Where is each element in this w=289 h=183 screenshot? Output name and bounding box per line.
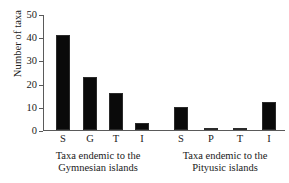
caption-line-1: Taxa endemic to the: [38, 150, 158, 162]
y-tick-mark: [39, 38, 43, 39]
bar-g1-s: [56, 35, 70, 130]
y-axis-line: [43, 15, 44, 131]
x-tick-label-g2-s: S: [178, 134, 184, 145]
group-caption-gymnesian: Taxa endemic to the Gymnesian islands: [38, 150, 158, 174]
bar-g1-i: [135, 123, 149, 130]
bar-chart-figure: Number of taxa 0 10 20 30 40 50: [0, 0, 289, 183]
plot-area: 0 10 20 30 40 50: [43, 15, 285, 131]
y-tick-label: 20: [27, 79, 38, 90]
x-axis-line: [43, 130, 285, 131]
y-tick-mark: [39, 85, 43, 86]
x-tick-label-g1-i: I: [140, 134, 144, 145]
caption-line-2: Gymnesian islands: [38, 162, 158, 174]
bar-g1-g: [83, 77, 97, 130]
y-tick-mark: [39, 15, 43, 16]
x-tick-label-g1-g: G: [86, 134, 94, 145]
y-tick-label: 0: [32, 126, 37, 137]
x-tick-label-g1-t: T: [113, 134, 119, 145]
group-caption-pityusic: Taxa endemic to the Pityusic islands: [165, 150, 285, 174]
y-tick-label: 30: [27, 56, 38, 67]
y-tick-label: 10: [27, 103, 38, 114]
y-axis-title: Number of taxa: [12, 0, 23, 99]
y-tick-mark: [39, 108, 43, 109]
bar-g1-t: [109, 93, 123, 130]
bar-g2-i: [262, 102, 276, 130]
y-tick-mark: [39, 131, 43, 132]
y-tick-label: 40: [27, 33, 38, 44]
bar-g2-t: [233, 128, 247, 130]
x-tick-label-g2-p: P: [208, 134, 214, 145]
x-tick-label-g1-s: S: [60, 134, 66, 145]
y-tick-mark: [39, 61, 43, 62]
bar-g2-p: [204, 128, 218, 130]
x-tick-label-g2-t: T: [237, 134, 243, 145]
y-tick-label: 50: [27, 10, 38, 21]
bar-g2-s: [174, 107, 188, 130]
caption-line-1: Taxa endemic to the: [165, 150, 285, 162]
x-tick-labels: S G T I S P T I: [43, 134, 285, 148]
x-tick-label-g2-i: I: [267, 134, 271, 145]
caption-line-2: Pityusic islands: [165, 162, 285, 174]
